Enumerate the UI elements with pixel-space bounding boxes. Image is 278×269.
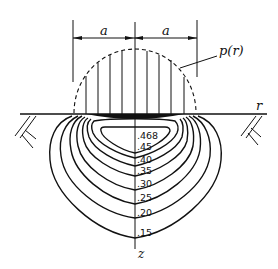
ground-hatch-right-icon: [241, 116, 262, 145]
pressure-label: p(r): [219, 43, 244, 58]
ground-hatch-left-icon: [15, 116, 36, 148]
contour-label: .25: [137, 192, 152, 203]
contour-label: .40: [137, 154, 152, 165]
contour-label: .35: [137, 165, 152, 176]
arrow-right-icon: [188, 36, 197, 40]
arrow-center-left-icon: [125, 36, 134, 40]
arrow-left-icon: [73, 36, 82, 40]
contour-label: .20: [137, 207, 152, 218]
pressure-leader-line: [180, 56, 217, 68]
contour-label: .468: [137, 130, 158, 141]
contour-label: .15: [137, 227, 152, 238]
contact-stress-diagram: a a p(r) r: [0, 0, 278, 269]
dimension-label-left: a: [100, 23, 108, 38]
contour-label: .45: [137, 141, 152, 152]
z-axis-label: z: [137, 247, 145, 261]
contour-label: .30: [137, 178, 152, 189]
r-axis-label: r: [256, 98, 263, 113]
dimension-label-right: a: [162, 23, 170, 38]
